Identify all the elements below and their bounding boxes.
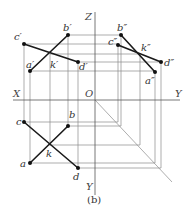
orthographic-projection-figure: Z X O Y Y c′ b′ a′ k′ d′ b″ c″ k″ d″ a″ …: [0, 0, 185, 207]
side-cd: [118, 45, 161, 62]
label-b-front: b′: [63, 22, 72, 33]
label-d-front: d′: [79, 61, 88, 72]
point-b-side: [119, 33, 123, 37]
label-origin: O: [85, 88, 93, 99]
point-a-side: [153, 70, 157, 74]
label-d-top: d: [73, 171, 79, 182]
label-b-side: b″: [117, 22, 127, 33]
label-c-front: c′: [14, 31, 23, 42]
point-d-top: [76, 166, 80, 170]
label-k-front: k′: [50, 59, 59, 70]
label-a-side: a″: [145, 75, 155, 86]
point-d-side: [159, 60, 163, 64]
label-c-side: c″: [108, 36, 118, 47]
label-k-side: k″: [141, 42, 151, 53]
label-a-top: a: [20, 158, 26, 169]
point-b-front: [66, 33, 70, 37]
point-a-top: [28, 161, 32, 165]
label-z: Z: [84, 11, 93, 22]
point-c-top: [22, 120, 26, 124]
label-c-top: c: [16, 116, 22, 127]
label-x: X: [12, 88, 21, 99]
label-k-top: k: [46, 148, 52, 159]
point-c-front: [22, 42, 26, 46]
label-a-front: a′: [26, 59, 35, 70]
figure-caption: (b): [87, 194, 101, 205]
label-y-right: Y: [175, 88, 183, 99]
label-y-bottom: Y: [86, 181, 94, 192]
label-b-top: b: [69, 109, 75, 120]
point-b-top: [66, 124, 70, 128]
label-d-side: d″: [164, 57, 174, 68]
